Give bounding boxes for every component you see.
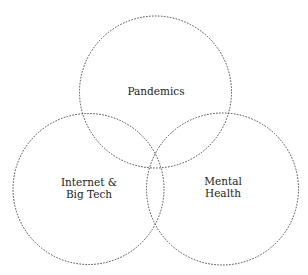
internet-label-line1: Internet & bbox=[61, 176, 117, 188]
mental-health-label-line1: Mental bbox=[204, 175, 242, 187]
pandemics-label: Pandemics bbox=[127, 85, 184, 97]
internet-label-line2: Big Tech bbox=[66, 188, 112, 200]
mental-health-label-line2: Health bbox=[205, 187, 241, 199]
venn-diagram: Pandemics Internet & Big Tech Mental Hea… bbox=[0, 0, 308, 275]
